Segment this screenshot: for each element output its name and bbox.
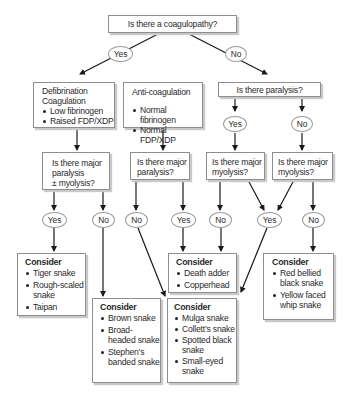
defibrination-title-1: Defibrination [42,86,114,96]
list-item: Low fibrinogen [42,106,114,116]
paralysis-yes-node: Yes [223,116,247,132]
answer-yes-node-shared: Yes [257,212,282,228]
defibrination-list: Low fibrinogen Raised FDP/XDP [42,106,114,126]
list-item: Taipan [25,302,85,312]
list-item: Raised FDP/XDP [42,116,114,126]
list-item: Small-eyed snake [174,356,236,376]
anticoagulation-list: Normal fibrinogen Normal FDP/XDP [132,105,202,145]
list-item: Normal fibrinogen [132,105,202,125]
answer-no-node-3: No [209,212,232,228]
list-item: Red bellied black snake [272,268,333,288]
major-myolysis-question-box-a: Is there major myolysis? [206,152,265,180]
root-no-node: No [225,46,247,62]
defibrination-box: Defibrination Coagulation Low fibrinogen… [33,82,115,128]
consider-box-tiger: Consider Tiger snake Rough-scaled snake … [17,253,86,316]
answer-no-node-2: No [125,212,148,228]
consider-box-red-bellied: Consider Red bellied black snake Yellow … [263,253,334,320]
major-paralysis-myolysis-question-box: Is there major paralysis ± myolysis? [42,152,110,190]
list-item: Yellow faced whip snake [272,290,333,310]
list-item: Death adder [176,268,236,278]
list-item: Spotted black snake [174,335,236,355]
answer-no-node-4: No [302,212,325,228]
list-item: Broad-headed snake [100,325,160,345]
list-item: Collett’s snake [174,324,236,334]
consider-box-brown: Consider Brown snake Broad-headed snake … [92,298,161,383]
major-paralysis-question-box: Is there major paralysis? [130,152,190,180]
list-item: Mulga snake [174,313,236,323]
list-item: Copperhead [176,280,236,290]
defibrination-title-2: Coagulation [42,96,114,106]
list-item: Tiger snake [25,268,85,278]
anticoagulation-box: Anti-coagulation Normal fibrinogen Norma… [123,82,203,128]
list-item: Stephen’s banded snake [100,347,160,367]
major-myolysis-question-box-b: Is there major myolysis? [272,152,333,180]
answer-no-node-1: No [92,212,115,228]
paralysis-question-box: Is there paralysis? [218,82,321,97]
paralysis-no-node: No [291,116,313,132]
list-item: Rough-scaled snake [25,280,85,300]
answer-yes-node-2: Yes [171,212,196,228]
list-item: Normal FDP/XDP [132,125,202,145]
answer-yes-node-1: Yes [42,212,67,228]
consider-box-death-adder: Consider Death adder Copperhead [168,253,237,293]
root-question-box: Is there a coagulopathy? [108,15,237,33]
list-item: Brown snake [100,313,160,323]
root-yes-node: Yes [108,46,133,62]
root-question: Is there a coagulopathy? [128,19,217,29]
anticoagulation-title: Anti-coagulation [132,87,202,97]
consider-box-mulga: Consider Mulga snake Collett’s snake Spo… [167,298,237,383]
